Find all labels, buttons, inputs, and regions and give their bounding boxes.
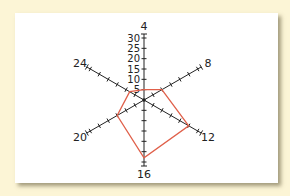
center-point — [142, 98, 146, 102]
axis-end-tick — [200, 64, 203, 69]
radial-tick-label: 30 — [127, 33, 140, 44]
axis-label-4: 4 — [141, 20, 148, 33]
radar-chart: 481216202451015202530 — [0, 0, 290, 196]
radial-tick-label: 25 — [127, 43, 140, 54]
axis-label-24: 24 — [73, 57, 87, 70]
series-polygon — [117, 90, 189, 158]
axis-label-8: 8 — [205, 57, 212, 70]
radial-tick-label: 20 — [127, 53, 140, 64]
radial-tick-label: 5 — [134, 84, 140, 95]
axis-label-16: 16 — [137, 168, 151, 181]
axis-label-12: 12 — [201, 131, 215, 144]
axis-label-20: 20 — [73, 131, 87, 144]
radial-tick-label: 15 — [127, 64, 140, 75]
radial-tick-label: 10 — [127, 74, 140, 85]
